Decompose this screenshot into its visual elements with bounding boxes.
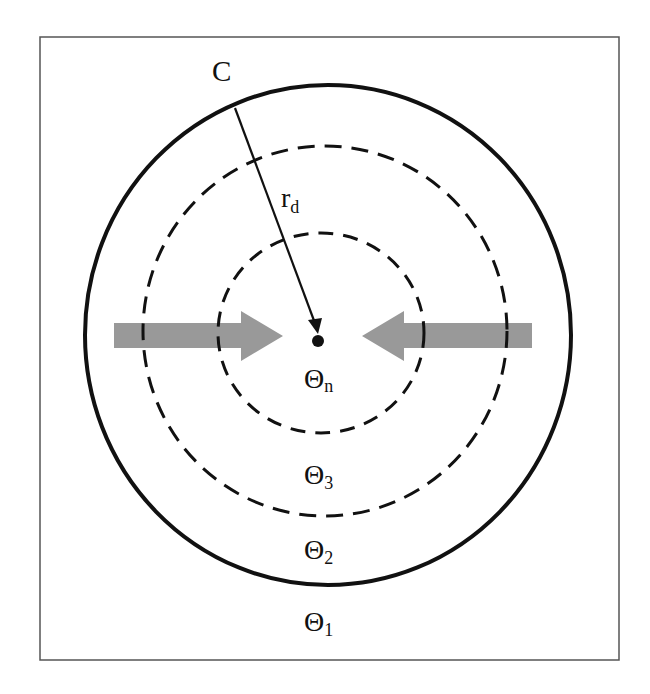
concentric-zone-diagram: C rd Θn Θ3 Θ2 Θ1 xyxy=(0,0,650,694)
zone-1-label: Θ1 xyxy=(304,606,333,640)
zone-2-label: Θ2 xyxy=(304,534,333,568)
zone-3-label: Θ3 xyxy=(304,459,333,493)
radius-line xyxy=(235,108,316,326)
radius-label: rd xyxy=(281,182,299,217)
center-point xyxy=(312,335,324,347)
left-inward-arrow-icon xyxy=(114,311,283,361)
radius-arrowhead-icon xyxy=(308,318,322,334)
boundary-label: C xyxy=(212,55,231,87)
zone-inner-label: Θn xyxy=(304,363,333,396)
